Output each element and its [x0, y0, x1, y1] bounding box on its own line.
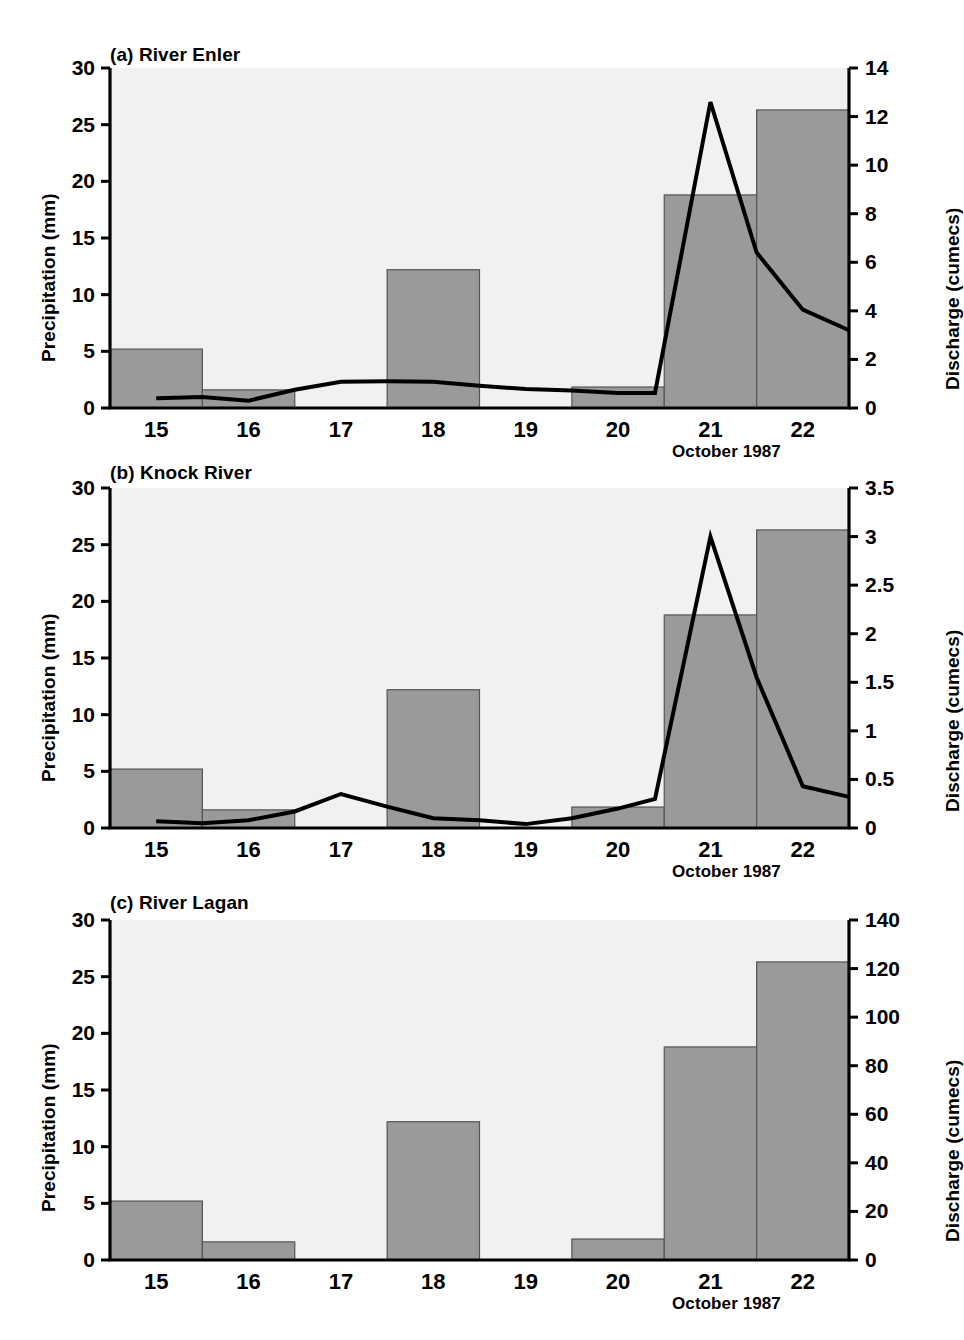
- left-tick-label: 15: [72, 1078, 96, 1101]
- left-tick-label: 30: [72, 908, 95, 931]
- right-tick-label: 10: [865, 153, 888, 176]
- left-tick-label: 5: [83, 339, 95, 362]
- x-tick-label-19: 19: [513, 837, 537, 862]
- chart-panel-b: (b) Knock River Precipitation (mm) Disch…: [0, 440, 957, 890]
- right-tick-label: 12: [865, 105, 888, 128]
- left-tick-label: 10: [72, 1135, 95, 1158]
- right-tick-label: 2: [865, 347, 877, 370]
- left-tick-label: 20: [72, 169, 95, 192]
- left-tick-label: 10: [72, 283, 95, 306]
- bar-18: [387, 1122, 479, 1260]
- right-tick-label: 2: [865, 622, 877, 645]
- bar-22: [757, 962, 849, 1260]
- x-tick-label-21: 21: [698, 837, 722, 862]
- right-tick-label: 3.5: [865, 476, 895, 499]
- panel-b-plot: 05101520253000.511.522.533.5151617181920…: [0, 440, 957, 890]
- right-tick-label: 40: [865, 1151, 888, 1174]
- x-tick-label-17: 17: [329, 417, 353, 442]
- right-tick-label: 1: [865, 719, 877, 742]
- x-tick-label-22: 22: [791, 1269, 815, 1294]
- bar-16: [202, 1242, 294, 1260]
- left-tick-label: 20: [72, 589, 95, 612]
- right-tick-label: 1.5: [865, 670, 895, 693]
- bar-21: [664, 1047, 756, 1260]
- panel-c-plot: 0510152025300204060801001201401516171819…: [0, 870, 957, 1340]
- right-tick-label: 20: [865, 1199, 888, 1222]
- x-tick-label-16: 16: [236, 417, 260, 442]
- bar-20: [572, 1239, 664, 1260]
- left-tick-label: 10: [72, 703, 95, 726]
- bar-21: [664, 195, 756, 408]
- left-tick-label: 5: [83, 759, 95, 782]
- x-tick-label-22: 22: [791, 417, 815, 442]
- right-tick-label: 80: [865, 1054, 888, 1077]
- bar-18: [387, 690, 479, 828]
- x-tick-label-15: 15: [144, 837, 168, 862]
- right-tick-label: 0: [865, 1248, 877, 1271]
- right-tick-label: 100: [865, 1005, 900, 1028]
- left-tick-label: 15: [72, 646, 96, 669]
- x-tick-label-20: 20: [606, 837, 630, 862]
- x-tick-label-19: 19: [513, 417, 537, 442]
- right-tick-label: 6: [865, 250, 877, 273]
- left-tick-label: 15: [72, 226, 96, 249]
- x-tick-label-20: 20: [606, 1269, 630, 1294]
- x-tick-label-21: 21: [698, 417, 722, 442]
- x-tick-label-20: 20: [606, 417, 630, 442]
- left-tick-label: 25: [72, 113, 96, 136]
- left-tick-label: 0: [83, 396, 95, 419]
- chart-panel-c: (c) River Lagan Precipitation (mm) Disch…: [0, 870, 957, 1340]
- bar-22: [757, 110, 849, 408]
- x-tick-label-15: 15: [144, 417, 168, 442]
- x-tick-label-19: 19: [513, 1269, 537, 1294]
- right-tick-label: 2.5: [865, 573, 895, 596]
- left-tick-label: 25: [72, 965, 96, 988]
- x-tick-label-18: 18: [421, 1269, 445, 1294]
- left-tick-label: 0: [83, 1248, 95, 1271]
- right-tick-label: 120: [865, 957, 900, 980]
- left-tick-label: 25: [72, 533, 96, 556]
- x-tick-label-18: 18: [421, 837, 445, 862]
- left-tick-label: 0: [83, 816, 95, 839]
- right-tick-label: 4: [865, 299, 877, 322]
- bar-15: [110, 769, 202, 828]
- x-tick-label-21: 21: [698, 1269, 722, 1294]
- x-tick-label-16: 16: [236, 1269, 260, 1294]
- bar-18: [387, 270, 479, 408]
- right-tick-label: 0: [865, 816, 877, 839]
- left-tick-label: 30: [72, 56, 95, 79]
- right-tick-label: 140: [865, 908, 900, 931]
- panel-a-plot: 051015202530024681012141516171819202122: [0, 0, 957, 470]
- x-tick-label-17: 17: [329, 837, 353, 862]
- chart-panel-a: (a) River Enler Precipitation (mm) Disch…: [0, 0, 957, 470]
- right-tick-label: 8: [865, 202, 877, 225]
- right-tick-label: 60: [865, 1102, 888, 1125]
- x-tick-label-22: 22: [791, 837, 815, 862]
- right-tick-label: 0.5: [865, 767, 895, 790]
- right-tick-label: 0: [865, 396, 877, 419]
- left-tick-label: 5: [83, 1191, 95, 1214]
- x-tick-label-16: 16: [236, 837, 260, 862]
- left-tick-label: 30: [72, 476, 95, 499]
- bar-15: [110, 1201, 202, 1260]
- x-tick-label-18: 18: [421, 417, 445, 442]
- x-tick-label-17: 17: [329, 1269, 353, 1294]
- right-tick-label: 14: [865, 56, 889, 79]
- left-tick-label: 20: [72, 1021, 95, 1044]
- right-tick-label: 3: [865, 525, 877, 548]
- bar-21: [664, 615, 756, 828]
- x-tick-label-15: 15: [144, 1269, 168, 1294]
